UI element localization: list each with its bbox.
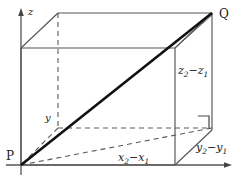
- right-angle-marker: [198, 116, 209, 128]
- pq-diagonal-bold: [21, 13, 212, 165]
- base-diagonal-dashed: [21, 128, 212, 165]
- z-axis-label: z: [28, 7, 33, 17]
- three-d-distance-figure: z y P Q z2−z1 x2−x1 y2−y1: [0, 0, 237, 180]
- height-edge-label: z2−z1: [178, 65, 208, 79]
- pq-triangle-upper-edge: [175, 15, 212, 48]
- box-top-face: [21, 13, 212, 48]
- y-axis-label: y: [45, 113, 51, 123]
- point-q-label: Q: [219, 8, 229, 20]
- depth-edge-label: y2−y1: [196, 142, 227, 156]
- point-p-label: P: [6, 150, 14, 162]
- width-edge-label: x2−x1: [118, 152, 149, 166]
